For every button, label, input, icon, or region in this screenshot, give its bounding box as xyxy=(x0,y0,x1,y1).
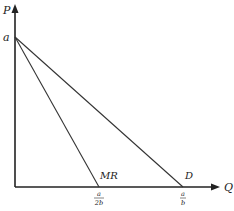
mr-curve xyxy=(15,37,99,187)
demand-intercept-numerator: a xyxy=(181,190,185,198)
y-intercept-label: a xyxy=(3,31,10,44)
mr-label: MR xyxy=(99,170,118,181)
x-axis-arrow-icon xyxy=(211,184,220,191)
mr-intercept-denominator: 2b xyxy=(94,199,103,207)
demand-label: D xyxy=(184,170,193,181)
mr-intercept-numerator: a xyxy=(97,190,101,198)
diagram-canvas: P Q a MR D a 2b a b xyxy=(0,0,234,211)
demand-intercept-denominator: b xyxy=(181,199,185,207)
y-axis-arrow-icon xyxy=(12,4,19,13)
mr-intercept-fraction: a 2b xyxy=(94,190,104,207)
y-axis-label: P xyxy=(2,4,11,17)
x-axis-label: Q xyxy=(224,181,233,194)
demand-intercept-fraction: a b xyxy=(180,190,186,207)
demand-curve xyxy=(15,37,183,187)
